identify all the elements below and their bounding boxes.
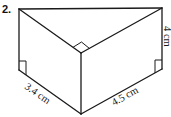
top-left-edge [19,9,81,53]
prism-diagram: 4 cm 3.4 cm 4.5 cm [0,0,171,117]
base-right-label: 4.5 cm [110,84,140,107]
top-back-edge [19,8,162,9]
right-angle-marker-top [73,42,90,49]
base-left-label: 3.4 cm [23,81,53,106]
height-label: 4 cm [162,26,171,47]
top-right-edge [81,8,162,53]
prism-figure: 2. 4 cm 3.4 cm 4.5 cm [0,0,171,117]
